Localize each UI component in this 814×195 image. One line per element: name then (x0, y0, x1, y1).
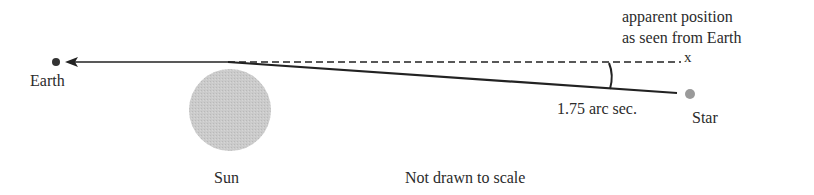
apparent-position-label: apparent position as seen from Earth (622, 6, 742, 48)
star-label: Star (692, 108, 718, 127)
apparent-position-line2: as seen from Earth (622, 27, 742, 48)
star-dot (685, 89, 695, 99)
apparent-position-line1: apparent position (622, 6, 742, 27)
scale-note-label: Not drawn to scale (405, 168, 525, 187)
sun-circle (189, 69, 271, 151)
earth-label: Earth (30, 71, 65, 90)
apparent-position-marker: x (684, 48, 692, 67)
angle-label: 1.75 arc sec. (557, 99, 637, 118)
sun-label: Sun (214, 168, 239, 187)
deflection-angle-arc (609, 63, 612, 89)
earth-dot (52, 58, 60, 66)
